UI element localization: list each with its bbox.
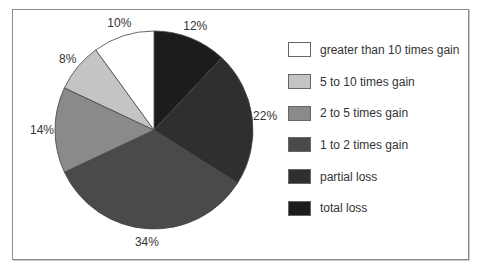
legend: greater than 10 times gain 5 to 10 times… xyxy=(288,34,459,224)
legend-label: greater than 10 times gain xyxy=(320,43,459,57)
legend-swatch xyxy=(288,201,311,216)
slice-label: 22% xyxy=(253,109,277,123)
legend-item-total-loss: total loss xyxy=(288,192,459,224)
legend-swatch xyxy=(288,74,311,89)
slice-label: 34% xyxy=(135,235,159,249)
legend-swatch xyxy=(288,137,311,152)
legend-swatch xyxy=(288,106,311,121)
legend-label: 5 to 10 times gain xyxy=(320,75,415,89)
legend-item-greater-than-10x: greater than 10 times gain xyxy=(288,34,459,66)
slice-label: 14% xyxy=(30,123,54,137)
legend-item-2-to-5x: 2 to 5 times gain xyxy=(288,97,459,129)
legend-label: 1 to 2 times gain xyxy=(320,138,408,152)
slice-label: 10% xyxy=(107,16,131,30)
legend-label: partial loss xyxy=(320,170,377,184)
legend-item-partial-loss: partial loss xyxy=(288,161,459,193)
legend-swatch xyxy=(288,169,311,184)
legend-swatch xyxy=(288,42,311,57)
legend-label: total loss xyxy=(320,201,367,215)
legend-item-1-to-2x: 1 to 2 times gain xyxy=(288,129,459,161)
slice-label: 8% xyxy=(59,52,77,66)
slice-label: 12% xyxy=(183,19,207,33)
legend-item-5-to-10x: 5 to 10 times gain xyxy=(288,66,459,98)
legend-label: 2 to 5 times gain xyxy=(320,106,408,120)
